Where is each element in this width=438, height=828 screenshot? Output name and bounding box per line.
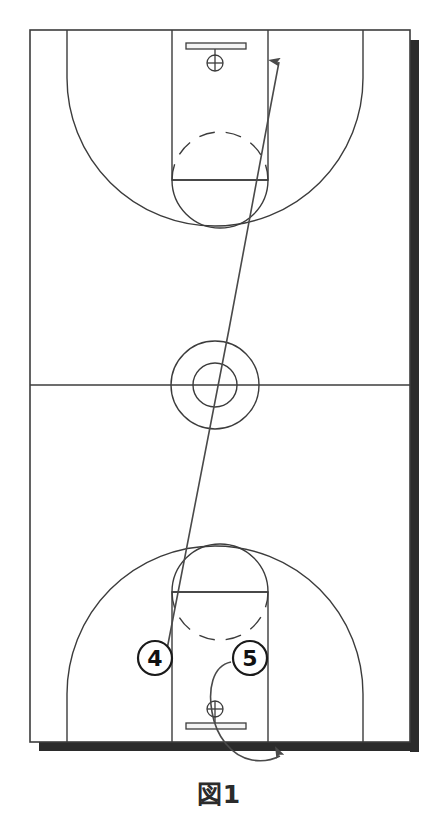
top-backboard <box>186 43 246 49</box>
player-marker-5[interactable]: 5 <box>233 641 267 675</box>
player-marker-4[interactable]: 4 <box>138 641 172 675</box>
figure-caption: 図1 <box>0 778 438 812</box>
player-marker-5-label: 5 <box>242 646 257 671</box>
player-marker-4-label: 4 <box>147 646 162 671</box>
basketball-court-diagram: 4 5 <box>0 0 438 828</box>
figure-container: 4 5 図1 <box>0 0 438 828</box>
court-boundary <box>30 30 410 742</box>
